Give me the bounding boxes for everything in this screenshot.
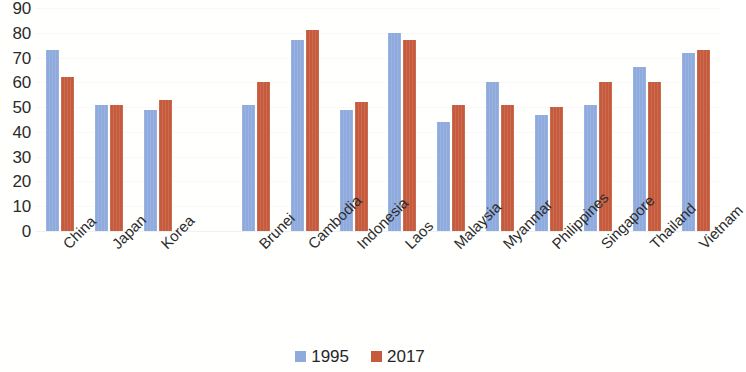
x-axis-slot: Myanmar xyxy=(476,231,525,341)
y-axis-tick-label: 60 xyxy=(12,74,31,91)
bar-1995 xyxy=(144,110,157,231)
bar-group xyxy=(36,8,85,231)
bar-2017 xyxy=(697,50,710,231)
x-axis-slot: Korea xyxy=(134,231,183,341)
square-swatch-icon xyxy=(371,351,382,362)
bar-group xyxy=(280,8,329,231)
y-axis-tick-label: 30 xyxy=(12,149,31,166)
y-axis-tick-label: 0 xyxy=(22,223,31,240)
bar-group xyxy=(231,8,280,231)
y-axis-tick-label: 90 xyxy=(12,0,31,17)
bar-2017 xyxy=(550,107,563,231)
bar-1995 xyxy=(46,50,59,231)
plot-area xyxy=(36,8,720,231)
bar-2017 xyxy=(452,105,465,231)
y-axis-tick-label: 20 xyxy=(12,173,31,190)
bar-group xyxy=(476,8,525,231)
legend: 19952017 xyxy=(0,345,720,367)
x-axis-slot: Indonesia xyxy=(329,231,378,341)
legend-item[interactable]: 1995 xyxy=(295,348,349,365)
y-axis: 9080706050403020100 xyxy=(0,0,34,240)
bar-group xyxy=(85,8,134,231)
y-axis-tick-label: 80 xyxy=(12,25,31,42)
x-axis-slot: Thailand xyxy=(622,231,671,341)
bar-group xyxy=(134,8,183,231)
bar-group xyxy=(525,8,574,231)
legend-label: 1995 xyxy=(311,348,349,365)
x-axis-slot: Malaysia xyxy=(427,231,476,341)
x-axis-slot: Philippines xyxy=(525,231,574,341)
x-axis-slot: Brunei xyxy=(231,231,280,341)
legend-item[interactable]: 2017 xyxy=(371,348,425,365)
bar-2017 xyxy=(110,105,123,231)
x-axis: ChinaJapanKoreaBruneiCambodiaIndonesiaLa… xyxy=(36,231,720,341)
bar-1995 xyxy=(437,122,450,231)
y-axis-tick-label: 40 xyxy=(12,124,31,141)
y-axis-tick-label: 70 xyxy=(12,50,31,67)
bar-2017 xyxy=(501,105,514,231)
bar-group xyxy=(427,8,476,231)
bar-2017 xyxy=(159,100,172,231)
bar-1995 xyxy=(95,105,108,231)
bar-2017 xyxy=(61,77,74,231)
x-axis-slot: Vietnam xyxy=(671,231,720,341)
square-swatch-icon xyxy=(295,351,306,362)
bar-2017 xyxy=(257,82,270,231)
y-axis-tick-label: 10 xyxy=(12,198,31,215)
legend-label: 2017 xyxy=(387,348,425,365)
x-axis-slot: Laos xyxy=(378,231,427,341)
bar-group xyxy=(671,8,720,231)
bar-1995 xyxy=(291,40,304,231)
x-axis-slot: Cambodia xyxy=(280,231,329,341)
x-axis-slot: Japan xyxy=(85,231,134,341)
bar-2017 xyxy=(306,30,319,231)
bar-1995 xyxy=(242,105,255,231)
x-axis-slot: Singapore xyxy=(573,231,622,341)
bar-groups xyxy=(36,8,720,231)
x-axis-slot: China xyxy=(36,231,85,341)
y-axis-tick-label: 50 xyxy=(12,99,31,116)
x-axis-slot-spacer xyxy=(183,231,232,341)
